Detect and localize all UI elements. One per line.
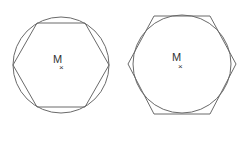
center-cross-icon-right: × xyxy=(178,62,183,71)
figure-circumscribed-hexagon: M × xyxy=(128,15,236,114)
figure-inscribed-hexagon: M × xyxy=(13,17,109,113)
diagram-canvas: M × M × xyxy=(0,0,248,147)
center-cross-icon-left: × xyxy=(59,63,64,72)
